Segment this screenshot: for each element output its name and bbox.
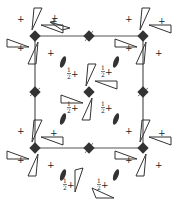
- svg-text:+: +: [17, 14, 25, 24]
- svg-text:+: +: [125, 155, 133, 165]
- fourbar-axis-icon: [137, 30, 148, 41]
- fourbar-axis-icon: [137, 142, 148, 153]
- svg-text:+: +: [71, 69, 79, 79]
- svg-text:+: +: [155, 48, 163, 58]
- twofold-axis-icon: [112, 113, 121, 126]
- svg-text:+: +: [125, 126, 133, 136]
- svg-text:+: +: [47, 48, 55, 58]
- svg-text:+: +: [158, 16, 166, 26]
- svg-text:+: +: [51, 13, 59, 23]
- svg-text:+: +: [71, 103, 79, 113]
- svg-text:+: +: [158, 128, 166, 138]
- svg-text:+: +: [105, 103, 113, 113]
- fourbar-axis-icon: [29, 30, 40, 41]
- top-partial-motif: +: [50, 13, 70, 30]
- twofold-axis-icon: [59, 113, 68, 126]
- svg-text:+: +: [125, 43, 133, 53]
- svg-text:+: +: [17, 155, 25, 165]
- svg-text:+: +: [105, 67, 113, 77]
- svg-text:+: +: [67, 180, 75, 190]
- svg-text:+: +: [47, 160, 55, 170]
- fourbar-axis-icon: [83, 142, 94, 153]
- fourbar-axis-icon: [29, 86, 40, 97]
- svg-text:+: +: [17, 43, 25, 53]
- twofold-axis-icon: [112, 169, 121, 182]
- symmetry-diagram: + + + + + + + + + + + + + + + + 12+ 12+ …: [0, 0, 175, 202]
- svg-text:+: +: [155, 160, 163, 170]
- fourbar-axis-icon: [29, 142, 40, 153]
- svg-text:+: +: [101, 180, 109, 190]
- twofold-axis-icon: [112, 56, 121, 69]
- svg-text:+: +: [125, 14, 133, 24]
- bottom-motif-right: 12+: [92, 177, 114, 198]
- fourbar-axis-icon: [83, 86, 94, 97]
- fourbar-axis-icon: [83, 30, 94, 41]
- svg-text:+: +: [17, 126, 25, 136]
- svg-text:+: +: [50, 128, 58, 138]
- fourbar-axis-icon: [137, 86, 148, 97]
